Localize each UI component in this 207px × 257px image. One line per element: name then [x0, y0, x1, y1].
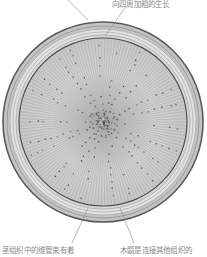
leader-line-bark	[68, 0, 88, 20]
stem-cross-section-diagram: 向四周加粗的生长 茎组织中的维管束有着 木髓是连接其他组织的	[0, 0, 207, 257]
label-pith: 木髓是连接其他组织的	[120, 246, 192, 255]
wood-layer	[19, 38, 187, 206]
label-growth: 向四周加粗的生长	[112, 0, 170, 9]
label-vascular-bundles: 茎组织中的维管束有着	[2, 246, 74, 255]
stem-illustration	[0, 0, 207, 257]
